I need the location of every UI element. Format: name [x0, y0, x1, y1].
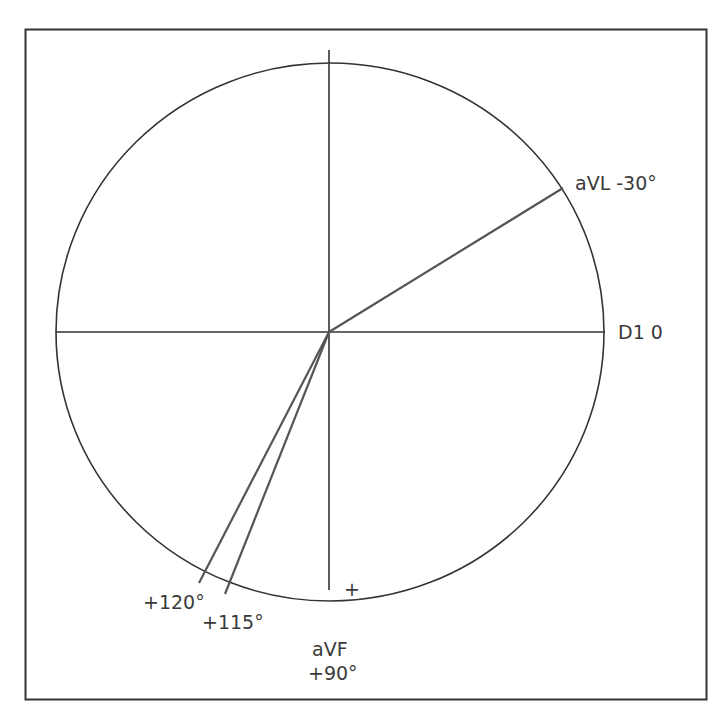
- vector-120-line: [199, 332, 329, 583]
- avl-label: aVL -30°: [575, 174, 657, 193]
- axis-diagram: [0, 0, 723, 717]
- d1-label: D1 0: [618, 323, 663, 342]
- avl-axis-line: [329, 188, 563, 332]
- avf-angle-label: +90°: [308, 664, 358, 683]
- angle-115-label: +115°: [202, 613, 264, 632]
- angle-120-label: +120°: [143, 593, 205, 612]
- plus-sign-label: +: [344, 580, 360, 599]
- vector-115-line: [225, 332, 329, 594]
- avf-name-label: aVF: [312, 640, 348, 659]
